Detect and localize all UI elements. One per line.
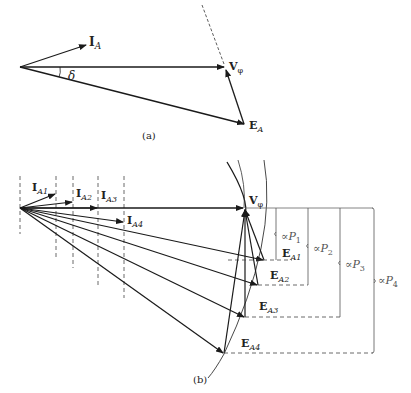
label-vphi-b: Vφ xyxy=(248,194,264,209)
figure-b: IA1 IA2 IA3 IA4 Vφ EA1 EA2 EA3 EA4 ∝P1 ∝… xyxy=(20,160,398,385)
label-p2: ∝P2 xyxy=(313,242,333,257)
label-ea4: EA4 xyxy=(241,337,260,352)
label-ea2: EA2 xyxy=(270,269,289,284)
figure-a: IA δ Vφ EA (a) xyxy=(20,5,263,141)
caption-b: (b) xyxy=(193,374,207,385)
label-ea3: EA3 xyxy=(259,300,278,315)
delta-angle-arc xyxy=(59,67,60,77)
emf-locus-arc-inner xyxy=(227,162,246,217)
phasor-diagram: IA δ Vφ EA (a) xyxy=(0,0,411,393)
label-p4: ∝P4 xyxy=(378,274,398,289)
label-ea1: EA1 xyxy=(282,247,301,262)
reactance-drops xyxy=(224,210,264,353)
label-delta: δ xyxy=(68,69,75,83)
emf-phasor-a xyxy=(20,67,244,124)
label-ia1: IA1 xyxy=(32,181,48,196)
label-ea: EA xyxy=(249,119,263,134)
current-phasor-a xyxy=(20,45,86,67)
label-ia4: IA4 xyxy=(127,214,143,229)
label-p3: ∝P3 xyxy=(345,258,365,273)
caption-a: (a) xyxy=(142,130,156,141)
label-ia2: IA2 xyxy=(76,187,92,202)
locus-dashed-line-a xyxy=(202,5,224,64)
reactance-drop-phasor-a xyxy=(226,70,244,124)
label-p1: ∝P1 xyxy=(281,230,301,245)
label-vphi-a: Vφ xyxy=(228,60,244,75)
label-ia: IA xyxy=(89,35,102,51)
label-ia3: IA3 xyxy=(101,189,117,204)
